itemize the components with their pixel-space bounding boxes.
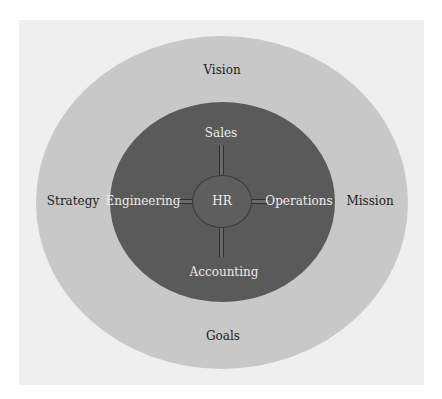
label-strategy: Strategy	[47, 194, 99, 208]
connector-accounting	[219, 227, 224, 257]
connector-sales	[219, 145, 224, 176]
label-sales: Sales	[205, 126, 237, 140]
label-vision: Vision	[203, 63, 240, 77]
label-engineering: Engineering	[106, 194, 181, 208]
label-goals: Goals	[206, 329, 240, 343]
label-hr: HR	[212, 194, 232, 208]
label-operations: Operations	[265, 194, 332, 208]
label-mission: Mission	[346, 194, 393, 208]
label-accounting: Accounting	[190, 265, 259, 279]
